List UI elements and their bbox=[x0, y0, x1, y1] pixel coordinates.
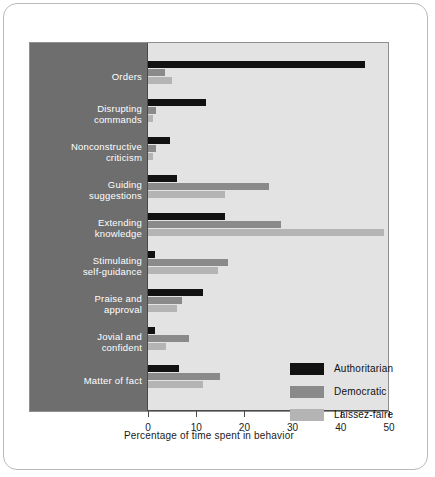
bar-laissez-faire bbox=[148, 305, 177, 312]
bar-row: Disruptingcommands bbox=[30, 91, 388, 129]
category-label: Nonconstructivecriticism bbox=[0, 141, 142, 163]
bar-laissez-faire bbox=[148, 343, 166, 350]
bar-authoritarian bbox=[148, 213, 225, 220]
legend-swatch bbox=[290, 386, 324, 398]
legend-item: Authoritarian bbox=[290, 361, 410, 380]
bar-authoritarian bbox=[148, 99, 206, 106]
bar-democratic bbox=[148, 259, 228, 266]
bar-authoritarian bbox=[148, 175, 177, 182]
bar-democratic bbox=[148, 373, 220, 380]
bar-laissez-faire bbox=[148, 229, 384, 236]
bar-laissez-faire bbox=[148, 153, 153, 160]
chart-legend: AuthoritarianDemocraticLaissez-faire bbox=[290, 361, 410, 430]
bar-row: Stimulatingself-guidance bbox=[30, 243, 388, 281]
bar-authoritarian bbox=[148, 327, 155, 334]
bar-row: Praise andapproval bbox=[30, 281, 388, 319]
bar-laissez-faire bbox=[148, 381, 203, 388]
legend-item: Laissez-faire bbox=[290, 407, 410, 426]
x-axis-title: Percentage of time spent in behavior bbox=[29, 430, 389, 441]
legend-item: Democratic bbox=[290, 384, 410, 403]
bar-authoritarian bbox=[148, 61, 365, 68]
legend-swatch bbox=[290, 409, 324, 421]
category-label: Jovial andconfident bbox=[0, 331, 142, 353]
bar-democratic bbox=[148, 183, 269, 190]
bar-democratic bbox=[148, 107, 156, 114]
category-label: Praise andapproval bbox=[0, 293, 142, 315]
legend-label: Democratic bbox=[334, 386, 387, 397]
x-tick bbox=[196, 411, 197, 417]
x-tick bbox=[148, 411, 149, 417]
bar-democratic bbox=[148, 335, 189, 342]
bar-authoritarian bbox=[148, 365, 179, 372]
bar-row: Extendingknowledge bbox=[30, 205, 388, 243]
bar-democratic bbox=[148, 221, 281, 228]
category-label: Guidingsuggestions bbox=[0, 179, 142, 201]
category-label: Matter of fact bbox=[0, 375, 142, 386]
bar-laissez-faire bbox=[148, 77, 172, 84]
bar-authoritarian bbox=[148, 251, 155, 258]
bar-laissez-faire bbox=[148, 115, 153, 122]
bar-authoritarian bbox=[148, 289, 203, 296]
bar-row: Nonconstructivecriticism bbox=[30, 129, 388, 167]
bar-authoritarian bbox=[148, 137, 170, 144]
category-label: Stimulatingself-guidance bbox=[0, 255, 142, 277]
category-label: Orders bbox=[0, 71, 142, 82]
bar-democratic bbox=[148, 69, 165, 76]
legend-label: Authoritarian bbox=[334, 363, 393, 374]
bar-row: Orders bbox=[30, 53, 388, 91]
bar-row: Guidingsuggestions bbox=[30, 167, 388, 205]
bar-laissez-faire bbox=[148, 191, 225, 198]
category-label: Disruptingcommands bbox=[0, 103, 142, 125]
bar-democratic bbox=[148, 297, 182, 304]
category-label: Extendingknowledge bbox=[0, 217, 142, 239]
bar-democratic bbox=[148, 145, 156, 152]
x-tick bbox=[244, 411, 245, 417]
legend-swatch bbox=[290, 363, 324, 375]
legend-label: Laissez-faire bbox=[334, 409, 393, 420]
bar-row: Jovial andconfident bbox=[30, 319, 388, 357]
bar-laissez-faire bbox=[148, 267, 218, 274]
chart-figure: OrdersDisruptingcommandsNonconstructivec… bbox=[29, 42, 389, 412]
figure-frame: OrdersDisruptingcommandsNonconstructivec… bbox=[3, 3, 428, 470]
